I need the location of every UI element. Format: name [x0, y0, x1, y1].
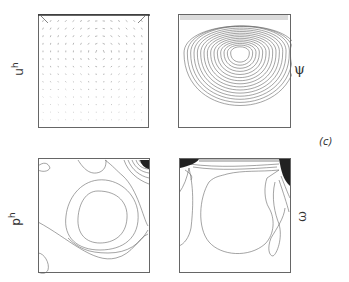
vorticity-panel	[179, 158, 293, 274]
pressure-label-base: p	[9, 218, 23, 226]
pressure-label: ph	[8, 212, 22, 225]
pressure-label-superscript: h	[7, 212, 17, 218]
streamfunction-label: ψ	[294, 62, 305, 76]
streamfunction-plot	[178, 13, 292, 129]
streamfunction-panel	[178, 13, 292, 129]
vorticity-plot	[179, 158, 293, 274]
velocity-field-plot	[38, 13, 150, 129]
velocity-label-base: u	[12, 68, 26, 76]
velocity-field-panel	[38, 13, 150, 129]
pressure-panel	[38, 158, 152, 274]
vorticity-label: ω	[295, 211, 308, 222]
velocity-label: uh	[11, 62, 25, 75]
pressure-plot	[38, 158, 152, 274]
velocity-label-superscript: h	[10, 62, 20, 68]
figure-panel-letter: (c)	[319, 137, 332, 147]
